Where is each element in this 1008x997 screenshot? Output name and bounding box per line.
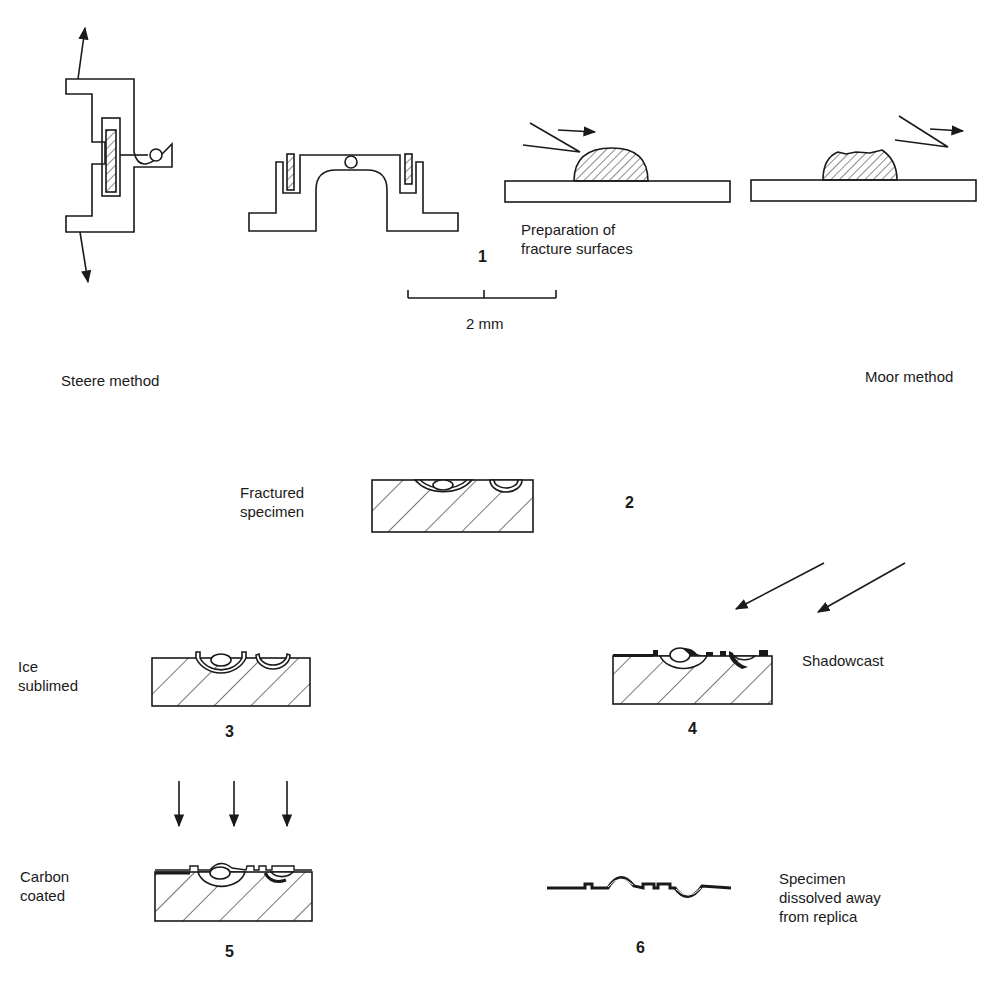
panel-4-caption: Shadowcast [802, 651, 884, 670]
steere-method-label: Steere method [61, 371, 159, 390]
scale-bar [408, 290, 556, 298]
fracture-prep-left [505, 123, 730, 202]
panel-6-caption: Specimen dissolved away from replica [779, 869, 881, 926]
carbon-coated-block [155, 781, 312, 921]
panel-2-caption: Fractured specimen [240, 483, 304, 521]
panel-1-caption: Preparation of fracture surfaces [521, 220, 633, 258]
panel-3-number: 3 [225, 723, 234, 741]
fractured-specimen-block [372, 480, 533, 532]
arrow-down [80, 232, 88, 282]
panel-5-caption: Carbon coated [20, 867, 69, 905]
replica-film [547, 877, 731, 896]
ice-sublimed-block [152, 652, 310, 706]
shadow-arrow-1 [736, 563, 824, 609]
panel-4-number: 4 [688, 720, 697, 738]
arrow-up [78, 28, 85, 79]
holder-center [249, 154, 458, 231]
panel-2-number: 2 [625, 494, 634, 512]
steere-holder [66, 28, 172, 282]
panel-5-number: 5 [225, 943, 234, 961]
panel-1-number: 1 [478, 248, 487, 266]
panel-3-caption: Ice sublimed [18, 657, 78, 695]
freeze-fracture-diagram [0, 0, 1008, 997]
moor-method-label: Moor method [865, 367, 953, 386]
scale-bar-label: 2 mm [466, 314, 504, 333]
fracture-prep-right [751, 116, 976, 201]
shadowcast-block [613, 563, 905, 704]
shadow-arrow-2 [818, 563, 905, 612]
panel-6-number: 6 [636, 939, 645, 957]
